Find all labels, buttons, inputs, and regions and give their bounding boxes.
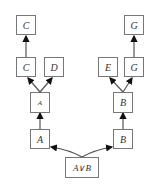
node-label: E — [105, 62, 111, 73]
node-label: G — [130, 62, 137, 73]
edge-aorb-to-b-low — [82, 147, 112, 157]
node-label: C — [23, 20, 30, 31]
node-a-or-b: A∨B — [65, 157, 99, 178]
edge-b-small-to-e-mid — [110, 78, 123, 92]
node-label: A — [38, 99, 42, 107]
node-label: A∨B — [73, 163, 91, 173]
node-g-mid: G — [124, 57, 144, 77]
edge-b-small-to-g-mid — [123, 78, 132, 92]
node-label: D — [50, 62, 57, 73]
node-b-low: B — [113, 129, 133, 149]
node-label: B — [120, 97, 126, 108]
node-d-mid: D — [44, 57, 64, 77]
node-g-top: G — [124, 15, 144, 35]
node-b-small: B — [113, 92, 133, 113]
node-c-top: C — [16, 15, 36, 35]
node-c-mid: C — [16, 57, 36, 77]
node-label: C — [23, 62, 30, 73]
node-label: B — [120, 134, 126, 145]
node-e-mid: E — [98, 57, 118, 77]
edge-a-small-to-c-mid — [28, 78, 40, 92]
node-a-small: A — [30, 92, 50, 113]
edge-a-small-to-d-mid — [40, 78, 52, 92]
node-a-low: A — [30, 129, 50, 149]
edge-aorb-to-a-low — [51, 147, 82, 157]
node-label: G — [130, 20, 137, 31]
node-label: A — [37, 134, 43, 145]
